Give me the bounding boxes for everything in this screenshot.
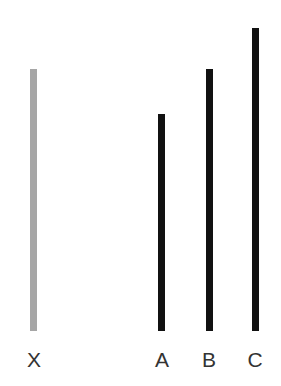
comparison-line-b-label: B xyxy=(199,349,219,371)
comparison-line-c xyxy=(252,28,259,331)
comparison-line-a-label: A xyxy=(152,349,172,371)
reference-line-label: X xyxy=(24,349,44,371)
comparison-line-a xyxy=(158,114,165,331)
comparison-line-c-label: C xyxy=(245,349,265,371)
reference-line-x xyxy=(30,69,37,331)
comparison-line-b xyxy=(206,69,213,331)
